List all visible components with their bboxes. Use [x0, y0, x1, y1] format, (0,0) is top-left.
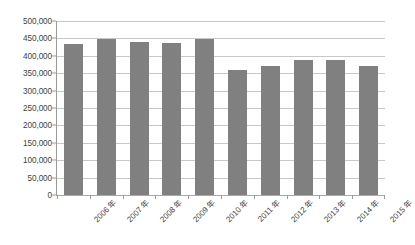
y-axis-tick-labels: 050,000100,000150,000200,000250,000300,0… [0, 21, 52, 195]
bar [359, 66, 378, 195]
bar [130, 42, 149, 195]
y-tick-label: 150,000 [23, 138, 52, 147]
bar [195, 39, 214, 195]
x-axis-tick-labels: 2006 年2007 年2008 年2009 年2010 年2011 年2012… [0, 198, 396, 245]
y-tick-label: 400,000 [23, 51, 52, 60]
bar [97, 39, 116, 195]
y-tick-label: 450,000 [23, 34, 52, 43]
y-tick-mark [52, 55, 56, 56]
bar [261, 66, 280, 195]
y-tick-mark [52, 142, 56, 143]
x-tick-label: 2010 年 [224, 198, 251, 225]
y-tick-mark [52, 38, 56, 39]
y-tick-label: 350,000 [23, 69, 52, 78]
bar-series [57, 21, 385, 195]
y-tick-mark [52, 125, 56, 126]
y-tick-label: 100,000 [23, 156, 52, 165]
bar [64, 44, 83, 195]
bar [162, 43, 181, 195]
y-tick-mark [52, 108, 56, 109]
bar [326, 60, 345, 195]
x-tick-label: 2008 年 [158, 198, 185, 225]
bar [228, 70, 247, 195]
x-tick-label: 2007 年 [125, 198, 152, 225]
x-tick-label: 2014 年 [355, 198, 382, 225]
x-tick-label: 2006 年 [93, 198, 120, 225]
y-tick-label: 250,000 [23, 104, 52, 113]
y-tick-mark [52, 177, 56, 178]
y-tick-label: 300,000 [23, 86, 52, 95]
y-tick-label: 50,000 [28, 173, 52, 182]
y-tick-mark [52, 160, 56, 161]
x-tick-label: 2009 年 [191, 198, 218, 225]
y-tick-label: 500,000 [23, 17, 52, 26]
y-tick-mark [52, 195, 56, 196]
y-tick-mark [52, 90, 56, 91]
y-tick-label: 200,000 [23, 121, 52, 130]
x-tick-label: 2011 年 [256, 198, 282, 224]
x-tick-label: 2015 年 [388, 198, 415, 225]
y-tick-mark [52, 73, 56, 74]
x-tick-label: 2012 年 [289, 198, 316, 225]
x-tick-label: 2013 年 [322, 198, 349, 225]
bar [294, 60, 313, 195]
y-tick-mark [52, 21, 56, 22]
